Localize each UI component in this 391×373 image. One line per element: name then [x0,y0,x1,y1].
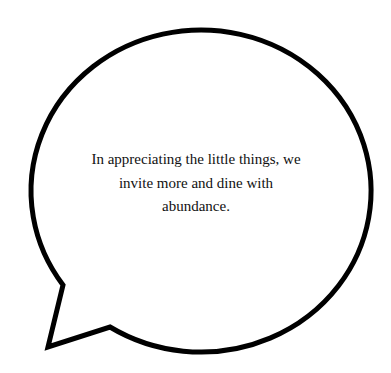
quote-line-2: invite more and dine with [60,172,332,196]
quote-line-1: In appreciating the little things, we [60,148,332,172]
quote-text: In appreciating the little things, we in… [60,148,332,219]
quote-line-3: abundance. [60,195,332,219]
